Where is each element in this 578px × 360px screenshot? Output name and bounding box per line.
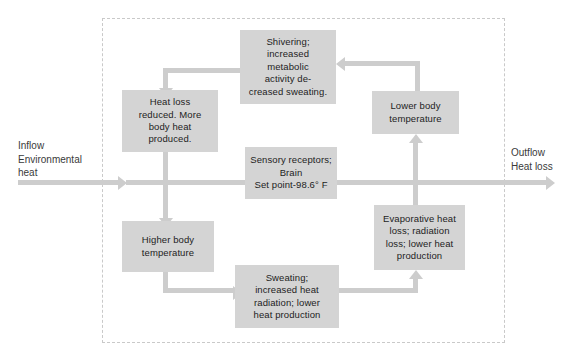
outflow-arrowhead [546, 176, 555, 190]
node-shivering-label: Shivering; increased metabolic activity … [249, 36, 327, 98]
node-shivering[interactable]: Shivering; increased metabolic activity … [240, 30, 336, 104]
edge-highertemp-to-sweating-horizontal [163, 288, 235, 293]
edge-evaporative-to-lowertemp-vertical [413, 142, 418, 205]
inflow-arrowhead [118, 176, 127, 190]
edge-evaporative-to-lowertemp-arrowhead [409, 134, 423, 143]
edge-shivering-to-heatloss-vertical [163, 68, 168, 90]
edge-shivering-to-heatloss-horizontal [163, 68, 240, 73]
outflow-line [337, 180, 550, 185]
edge-sweating-to-evaporative-vertical [413, 278, 418, 293]
node-sensory-receptors[interactable]: Sensory receptors; Brain Set point-98.6°… [245, 147, 337, 199]
node-lower-body-temperature-label: Lower body temperature [389, 100, 441, 125]
node-evaporative-heat-loss[interactable]: Evaporative heat loss; radiation loss; l… [374, 205, 465, 270]
node-lower-body-temperature[interactable]: Lower body temperature [372, 91, 459, 134]
node-higher-body-temperature-label: Higher body temperature [142, 234, 194, 259]
outflow-label: Outflow Heat loss [511, 146, 553, 173]
node-evaporative-heat-loss-label: Evaporative heat loss; radiation loss; l… [383, 213, 456, 263]
node-higher-body-temperature[interactable]: Higher body temperature [122, 221, 214, 272]
inflow-to-center-line [126, 180, 245, 185]
edge-sweating-to-evaporative-arrowhead [409, 270, 423, 279]
node-sweating[interactable]: Sweating; increased heat radiation; lowe… [235, 265, 339, 328]
edge-heatloss-to-highertemp-vertical [163, 152, 168, 221]
node-sensory-receptors-label: Sensory receptors; Brain Set point-98.6°… [250, 154, 332, 191]
edge-sweating-to-evaporative-horizontal [339, 288, 418, 293]
edge-lowertemp-to-shivering-arrowhead [336, 57, 345, 71]
inflow-label: Inflow Environmental heat [18, 139, 82, 180]
node-heat-loss-reduced[interactable]: Heat loss reduced. More body heat produc… [122, 90, 218, 152]
node-sweating-label: Sweating; increased heat radiation; lowe… [254, 272, 321, 322]
inflow-line [18, 180, 122, 185]
edge-lowertemp-to-shivering-horizontal [345, 61, 420, 66]
node-heat-loss-reduced-label: Heat loss reduced. More body heat produc… [139, 96, 202, 146]
diagram-canvas: Shivering; increased metabolic activity … [0, 0, 578, 360]
